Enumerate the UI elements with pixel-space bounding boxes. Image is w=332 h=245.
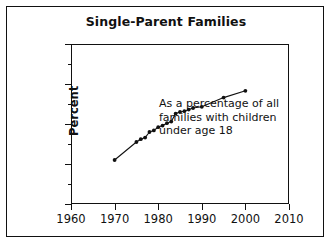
y-tick-minor	[68, 104, 72, 105]
data-point	[187, 108, 191, 112]
y-tick-major	[65, 124, 71, 125]
x-tick-label: 1960	[49, 212, 93, 226]
data-point	[156, 125, 160, 129]
y-tick-minor	[68, 184, 72, 185]
x-tick-major	[202, 204, 203, 210]
x-tick-label: 1990	[180, 212, 224, 226]
x-tick-major	[115, 204, 116, 210]
data-markers	[113, 89, 248, 162]
data-series-line	[71, 44, 289, 204]
data-point	[148, 130, 152, 134]
data-point	[200, 105, 204, 109]
plot-content: Percent As a percentage of all families …	[71, 44, 289, 204]
data-point	[165, 121, 169, 125]
y-tick-major	[65, 164, 71, 165]
x-tick-label: 2000	[223, 212, 267, 226]
y-tick-minor	[68, 64, 72, 65]
data-point	[191, 106, 195, 110]
x-tick-major	[71, 204, 72, 210]
line-path	[115, 91, 246, 160]
data-point	[139, 137, 143, 141]
data-point	[161, 124, 165, 128]
chart-title: Single-Parent Families	[0, 14, 332, 29]
x-tick-label: 1970	[93, 212, 137, 226]
x-tick-major	[289, 204, 290, 210]
data-point	[143, 136, 147, 140]
data-point	[178, 110, 182, 114]
data-point	[174, 112, 178, 116]
data-point	[169, 120, 173, 124]
y-tick-major	[65, 44, 71, 45]
x-tick-major	[245, 204, 246, 210]
data-point	[244, 89, 248, 93]
data-point	[113, 158, 117, 162]
x-tick-label: 1980	[136, 212, 180, 226]
data-point	[152, 129, 156, 133]
data-point	[135, 140, 139, 144]
y-tick-minor	[68, 144, 72, 145]
x-tick-label: 2010	[267, 212, 311, 226]
y-tick-major	[65, 84, 71, 85]
data-point	[222, 96, 226, 100]
chart-figure: Single-Parent Families Percent As a perc…	[0, 0, 332, 245]
x-tick-major	[158, 204, 159, 210]
data-point	[182, 109, 186, 113]
